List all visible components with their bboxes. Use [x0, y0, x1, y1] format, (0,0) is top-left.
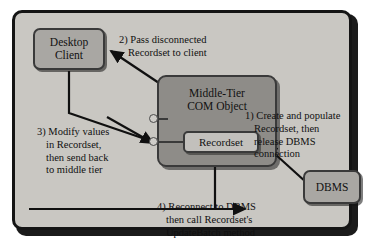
interface-stub-upper [158, 118, 168, 120]
step-4-line-1: 4) Reconnect to DBMS [157, 201, 256, 214]
step-label-2: 2) Pass disconnected Recordset to client [119, 34, 207, 60]
step-4-line-2: then call Recordset's [157, 214, 256, 227]
step-2-line-2: Recordset to client [119, 47, 207, 60]
middle-tier-line-2: COM Object [187, 100, 247, 113]
step-label-3: 3) Modify values in Recordset, then send… [37, 126, 109, 177]
recordset-label: Recordset [199, 136, 243, 148]
node-desktop-client[interactable]: Desktop Client [33, 28, 105, 70]
step-2-line-1: 2) Pass disconnected [119, 34, 207, 47]
interface-connector-dot-lower [149, 137, 158, 146]
interface-connector-dot-upper [149, 114, 158, 123]
step-4-line-3: UpdateBatch method [157, 227, 256, 240]
interface-stub-lower [158, 141, 184, 143]
step-1-line-2: Recordset, then [245, 123, 340, 136]
step-3-line-4: to middle tier [37, 164, 109, 177]
step-1-line-1: 1) Create and populate [245, 110, 340, 123]
desktop-client-line-1: Desktop [50, 36, 88, 49]
diagram-panel: Desktop Client Middle-Tier COM Object Re… [12, 10, 352, 230]
step-label-4: 4) Reconnect to DBMS then call Recordset… [157, 201, 256, 239]
step-1-line-3: release DBMS [245, 136, 340, 149]
step-3-line-2: in Recordset, [37, 139, 109, 152]
step-1-line-4: connection [245, 148, 340, 161]
middle-tier-line-1: Middle-Tier [187, 87, 247, 100]
step-3-line-3: then send back [37, 152, 109, 165]
step-label-1: 1) Create and populate Recordset, then r… [245, 110, 340, 161]
node-dbms[interactable]: DBMS [303, 170, 361, 204]
dbms-label: DBMS [316, 181, 349, 194]
desktop-client-line-2: Client [50, 49, 88, 62]
diagram-canvas: Desktop Client Middle-Tier COM Object Re… [0, 0, 368, 247]
step-3-line-1: 3) Modify values [37, 126, 109, 139]
